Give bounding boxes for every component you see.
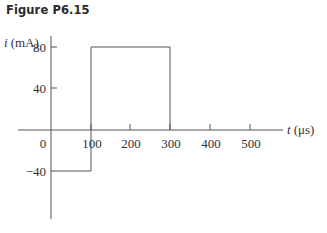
x-tick-label-300: 300 [161,136,181,151]
current-waveform [51,47,170,171]
x-axis-label: t(μs) [287,122,314,137]
x-tick-label-100: 100 [82,136,102,151]
x-tick-label-200: 200 [121,136,141,151]
x-tick-label-400: 400 [201,136,221,151]
chart-plot: i(mA) 80 40 −40 0 100 200 300 400 500 t(… [0,0,327,233]
y-tick-label-neg40: −40 [26,164,46,179]
x-tick-label-500: 500 [241,136,261,151]
y-tick-label-40: 40 [33,81,46,96]
y-tick-label-80: 80 [33,40,46,55]
x-tick-label-0: 0 [40,136,47,151]
